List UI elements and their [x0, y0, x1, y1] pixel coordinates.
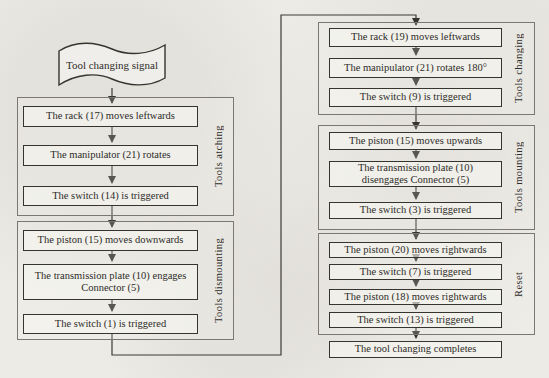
step-rack17-moves-leftwards: The rack (17) moves leftwards — [23, 106, 198, 127]
step-plate10-engages-connector5: The transmission plate (10) engages Conn… — [23, 264, 198, 300]
group-label-tools-changing: Tools changing — [506, 23, 530, 114]
step-manipulator21-rotates: The manipulator (21) rotates — [23, 145, 198, 166]
step-switch14-triggered: The switch (14) is triggered — [23, 186, 198, 206]
step-piston20-moves-rightwards: The piston (20) moves rightwards — [329, 242, 502, 258]
step-piston18-moves-rightwards: The piston (18) moves rightwards — [329, 289, 502, 305]
group-label-reset: Reset — [506, 234, 530, 334]
step-manipulator21-rotates-180: The manipulator (21) rotates 180° — [329, 58, 502, 78]
step-switch7-triggered: The switch (7) is triggered — [329, 264, 502, 280]
flowchart-canvas: Tool changing signal Tools atching The r… — [0, 0, 549, 378]
step-switch1-triggered: The switch (1) is triggered — [23, 314, 198, 334]
step-rack19-moves-leftwards: The rack (19) moves leftwards — [329, 28, 502, 47]
step-switch9-triggered: The switch (9) is triggered — [329, 88, 502, 107]
step-switch3-triggered: The switch (3) is triggered — [329, 202, 502, 219]
step-switch13-triggered: The switch (13) is triggered — [329, 312, 502, 328]
end-tool-changing-completes: The tool changing completes — [329, 341, 502, 358]
step-plate10-disengages-connector5: The transmission plate (10) disengages C… — [329, 161, 502, 187]
step-piston15-moves-upwards: The piston (15) moves upwards — [329, 132, 502, 150]
group-label-tools-dismounting: Tools dismounting — [206, 222, 230, 339]
group-label-tools-atching: Tools atching — [206, 98, 230, 215]
step-piston15-moves-downwards: The piston (15) moves downwards — [23, 230, 198, 251]
group-label-tools-mounting: Tools mounting — [506, 126, 530, 229]
start-terminal-label: Tool changing signal — [58, 50, 166, 80]
